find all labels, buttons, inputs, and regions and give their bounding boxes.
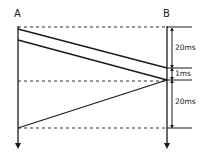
node-b-label: B	[163, 8, 170, 19]
arrow-up-icon	[170, 28, 174, 31]
interval-label-3: 20ms	[175, 97, 196, 106]
node-a-label: A	[14, 8, 21, 19]
signal-line-return	[18, 80, 167, 128]
signal-line-2	[18, 40, 167, 80]
signal-line-1	[18, 29, 167, 68]
timing-diagram: A B 20ms 1ms 20ms	[0, 0, 203, 155]
interval-label-1: 20ms	[175, 43, 196, 52]
arrow-down-icon	[164, 143, 170, 149]
interval-label-2: 1ms	[175, 69, 191, 78]
arrow-down-icon	[15, 143, 21, 149]
